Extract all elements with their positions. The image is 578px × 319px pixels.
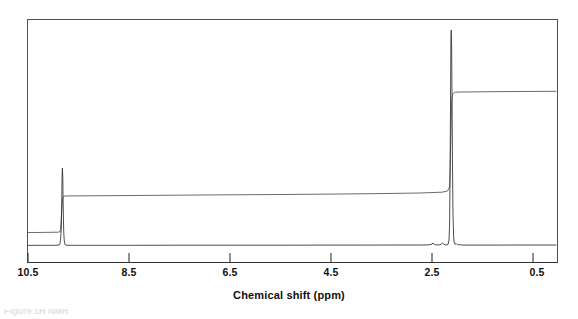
tick-label-2-5: 2.5 xyxy=(424,266,439,278)
x-axis-title: Chemical shift (ppm) xyxy=(0,289,578,301)
tick-label-4-5: 4.5 xyxy=(323,266,338,278)
spectrum-trace xyxy=(28,30,556,245)
integral-path xyxy=(28,91,556,232)
nmr-figure: 10.5 8.5 6.5 4.5 2.5 0.5 Chemical shift … xyxy=(0,0,578,319)
plot-frame xyxy=(28,20,558,263)
integral-trace xyxy=(28,91,556,232)
frame-rect xyxy=(28,20,558,263)
tick-label-8-5: 8.5 xyxy=(121,266,136,278)
spectrum-path xyxy=(28,30,556,245)
spectrum-canvas xyxy=(0,0,578,319)
figure-caption-fragment: Figure 1H NMR xyxy=(4,309,69,316)
tick-label-0-5: 0.5 xyxy=(529,266,544,278)
x-axis xyxy=(28,253,558,263)
tick-label-6-5: 6.5 xyxy=(222,266,237,278)
tick-label-10-5: 10.5 xyxy=(17,266,38,278)
axis-ticks xyxy=(28,253,533,263)
caption-strip: Figure 1H NMR xyxy=(0,309,578,319)
